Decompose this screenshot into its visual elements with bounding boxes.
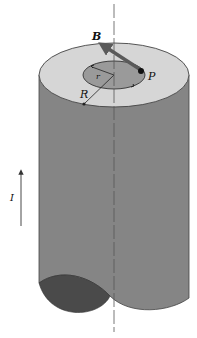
point-P-dot <box>138 68 144 74</box>
label-B: B <box>91 30 101 43</box>
radius-R-end-dot <box>82 102 85 105</box>
label-P: P <box>147 70 156 83</box>
label-I: I <box>9 192 15 203</box>
label-R: R <box>79 88 88 101</box>
cylindrical-conductor-diagram: B P r R I <box>0 0 197 338</box>
